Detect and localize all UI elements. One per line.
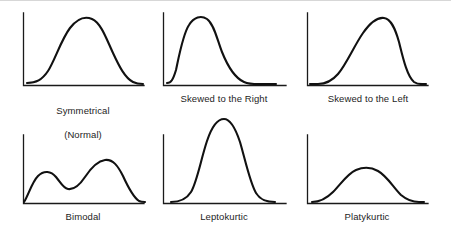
panel-symmetrical xyxy=(18,8,148,90)
bimodal-curve xyxy=(24,160,145,202)
symmetrical-curve xyxy=(27,18,143,84)
axes xyxy=(308,135,429,204)
caption-skewed-right: Skewed to the Right xyxy=(155,93,293,105)
panel-platykurtic xyxy=(302,132,432,208)
skewed-right-plot xyxy=(158,8,290,90)
leptokurtic-curve xyxy=(171,119,275,202)
skewed-left-plot xyxy=(302,8,432,90)
platykurtic-curve xyxy=(312,168,424,202)
caption-skewed-left: Skewed to the Left xyxy=(300,93,436,105)
panel-leptokurtic xyxy=(158,114,290,208)
panel-skewed-left xyxy=(302,8,432,90)
platykurtic-plot xyxy=(302,132,432,208)
skewed-left-curve xyxy=(310,18,426,84)
bimodal-plot xyxy=(18,132,148,208)
panel-skewed-right xyxy=(158,8,290,90)
axes xyxy=(164,135,287,204)
caption-symmetrical-line1: Symmetrical xyxy=(18,105,148,117)
panel-bimodal xyxy=(18,132,148,208)
axes xyxy=(24,135,145,204)
axes xyxy=(164,13,287,86)
caption-bimodal: Bimodal xyxy=(18,211,148,223)
skewed-right-curve xyxy=(167,17,276,84)
panel-grid: Symmetrical (Normal) Skewed to the Right… xyxy=(0,0,451,239)
caption-platykurtic: Platykurtic xyxy=(302,211,432,223)
symmetrical-plot xyxy=(18,8,148,90)
distribution-shapes-figure: Symmetrical (Normal) Skewed to the Right… xyxy=(0,0,451,239)
caption-leptokurtic: Leptokurtic xyxy=(158,211,290,223)
leptokurtic-plot xyxy=(158,114,290,208)
